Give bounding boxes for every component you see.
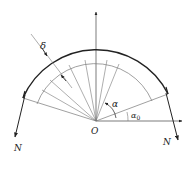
left-end-face: [23, 98, 96, 121]
right-force-label: N: [162, 137, 172, 147]
right-force-arrow: [166, 93, 178, 140]
radial-lines: [42, 60, 119, 121]
arch-diagram: δ α α0 O N N: [0, 0, 191, 172]
origin-label: O: [91, 126, 99, 136]
left-force-label: N: [13, 143, 23, 153]
alpha0-angle-arc: [127, 112, 128, 121]
delta-label: δ: [40, 40, 46, 51]
left-force-arrow: [15, 95, 25, 137]
thickness-indicator-line: [31, 34, 72, 88]
alpha-label: α: [112, 99, 118, 109]
alpha0-label: α0: [131, 111, 140, 121]
thickness-arrow-inner: [61, 75, 66, 81]
